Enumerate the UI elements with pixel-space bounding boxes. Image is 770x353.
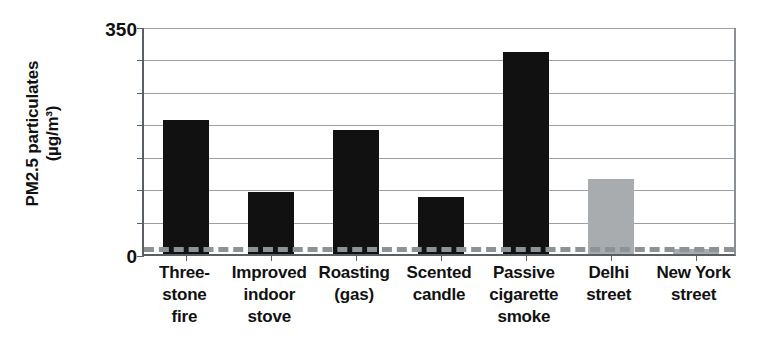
x-axis-label-roasting-gas: Roasting(gas) bbox=[312, 262, 397, 306]
gridline-100 bbox=[144, 190, 734, 191]
x-axis-label-improved-indoor-stove: Improvedindoorstove bbox=[227, 262, 312, 327]
bar-improved-indoor-stove bbox=[248, 192, 294, 254]
x-axis-label-line: smoke bbox=[481, 306, 566, 328]
x-axis-label-passive-cigarette-smoke: Passivecigarettesmoke bbox=[481, 262, 566, 327]
bar-scented-candle bbox=[418, 197, 464, 254]
bar-passive-cigarette-smoke bbox=[503, 52, 549, 254]
y-axis-tick-250 bbox=[137, 93, 144, 94]
x-axis-tick-6 bbox=[696, 254, 697, 261]
y-axis-tick-300 bbox=[137, 60, 144, 61]
y-axis-label: PM2.5 particulates (µg/m³) bbox=[0, 0, 86, 268]
x-axis-tick-2 bbox=[356, 254, 357, 261]
y-axis-tick-50 bbox=[137, 223, 144, 224]
x-axis-label-line: Passive bbox=[481, 262, 566, 284]
bar-roasting-gas bbox=[333, 130, 379, 254]
x-axis-label-new-york-street: New Yorkstreet bbox=[651, 262, 736, 306]
x-axis-label-line: Three- bbox=[142, 262, 227, 284]
x-axis-label-line: stone bbox=[142, 284, 227, 306]
y-axis-tick-150 bbox=[137, 158, 144, 159]
gridline-300 bbox=[144, 60, 734, 61]
x-axis-label-three-stone-fire: Three-stonefire bbox=[142, 262, 227, 327]
x-axis-tick-5 bbox=[611, 254, 612, 261]
x-axis-label-line: Scented bbox=[397, 262, 482, 284]
x-axis-tick-4 bbox=[526, 254, 527, 261]
x-axis-tick-0 bbox=[186, 254, 187, 261]
x-axis-label-line: Improved bbox=[227, 262, 312, 284]
x-axis-label-line: (gas) bbox=[312, 284, 397, 306]
x-axis-tick-3 bbox=[441, 254, 442, 261]
y-axis-tick-100 bbox=[137, 190, 144, 191]
x-axis-label-line: fire bbox=[142, 306, 227, 328]
plot-area bbox=[142, 28, 736, 256]
x-axis-tick-1 bbox=[271, 254, 272, 261]
gridline-350 bbox=[144, 28, 734, 29]
y-axis-label-line-2: (µg/m³) bbox=[43, 61, 63, 207]
y-axis-label-line-1: PM2.5 particulates bbox=[23, 61, 43, 207]
gridline-200 bbox=[144, 125, 734, 126]
x-axis-labels: Three-stonefireImprovedindoorstoveRoasti… bbox=[142, 262, 736, 353]
reference-guideline bbox=[144, 247, 734, 252]
y-axis-tick-label-min: 0 bbox=[82, 247, 137, 266]
bar-three-stone-fire bbox=[163, 120, 209, 254]
gridline-150 bbox=[144, 158, 734, 159]
x-axis-label-line: street bbox=[566, 284, 651, 306]
x-axis-label-line: street bbox=[651, 284, 736, 306]
y-axis-tick-0 bbox=[137, 256, 144, 257]
x-axis-label-line: indoor bbox=[227, 284, 312, 306]
x-axis-label-line: candle bbox=[397, 284, 482, 306]
x-axis-label-line: Delhi bbox=[566, 262, 651, 284]
x-axis-label-delhi-street: Delhistreet bbox=[566, 262, 651, 306]
gridline-250 bbox=[144, 93, 734, 94]
y-axis-tick-200 bbox=[137, 125, 144, 126]
chart-figure: PM2.5 particulates (µg/m³) 350 0 Three-s… bbox=[0, 0, 770, 353]
x-axis-label-line: Roasting bbox=[312, 262, 397, 284]
y-axis-tick-350 bbox=[137, 28, 144, 29]
x-axis-label-scented-candle: Scentedcandle bbox=[397, 262, 482, 306]
bar-delhi-street bbox=[588, 179, 634, 254]
x-axis-label-line: cigarette bbox=[481, 284, 566, 306]
x-axis-label-line: New York bbox=[651, 262, 736, 284]
x-axis-label-line: stove bbox=[227, 306, 312, 328]
y-axis-tick-label-max: 350 bbox=[82, 20, 137, 39]
